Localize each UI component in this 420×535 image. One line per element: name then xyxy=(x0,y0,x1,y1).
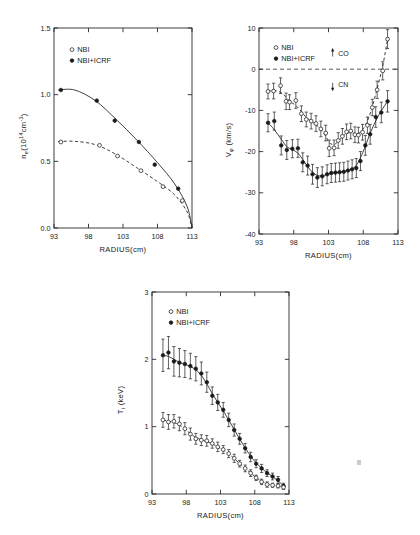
data-point xyxy=(254,476,258,480)
x-tick-label: 98 xyxy=(85,232,93,241)
y-tick-label: 0.5 xyxy=(41,157,51,166)
y-axis-label: Vφ (km/s) xyxy=(224,123,234,158)
legend-filled-marker xyxy=(274,57,278,61)
toroidal-rotation-group: 9398103108113-40-30-20-10010RADIUS(cm)Vφ… xyxy=(224,24,404,260)
data-point xyxy=(98,143,102,147)
toroidal-rotation-plot: 9398103108113-40-30-20-10010RADIUS(cm)Vφ… xyxy=(210,4,420,270)
toroidal-rotation-panel: 9398103108113-40-30-20-10010RADIUS(cm)Vφ… xyxy=(210,4,420,270)
legend: NBINBI+ICRF xyxy=(70,45,111,65)
x-tick-label: 93 xyxy=(50,232,58,241)
data-point xyxy=(285,148,289,152)
series-nbi-icrf xyxy=(266,91,389,188)
y-axis-label: ne(1014cm-3) xyxy=(18,113,29,158)
data-point xyxy=(178,361,182,365)
x-tick-label: 93 xyxy=(255,238,263,247)
data-point xyxy=(172,419,176,423)
data-point xyxy=(95,99,99,103)
data-point xyxy=(167,420,171,424)
data-point xyxy=(374,115,378,119)
data-point xyxy=(301,161,305,165)
data-point xyxy=(216,401,220,405)
legend-open-marker xyxy=(70,48,74,52)
data-point xyxy=(319,127,323,131)
legend-label-nbi: NBI xyxy=(281,43,293,52)
data-point xyxy=(294,99,298,103)
data-point xyxy=(336,139,340,143)
data-point xyxy=(320,175,324,179)
data-point xyxy=(296,147,300,151)
data-point xyxy=(176,187,180,191)
density-plot: 93981031081130.00.51.01.5RADIUS(cm)ne(10… xyxy=(0,4,210,270)
data-point xyxy=(59,140,63,144)
data-point xyxy=(137,140,141,144)
x-tick-label: 93 xyxy=(148,498,156,507)
data-point xyxy=(380,111,384,115)
data-point xyxy=(265,471,269,475)
data-point xyxy=(194,367,198,371)
data-point xyxy=(210,442,214,446)
data-point xyxy=(178,422,182,426)
ion-temperature-group: 93981031081130123RADIUS(cm)Ti (keV)NBINB… xyxy=(116,288,295,520)
data-point xyxy=(276,478,280,482)
data-point xyxy=(271,483,275,487)
data-point xyxy=(359,159,363,163)
data-point xyxy=(249,471,253,475)
data-point xyxy=(161,418,165,422)
data-point xyxy=(375,88,379,92)
data-point xyxy=(238,437,242,441)
data-point xyxy=(370,106,374,110)
data-point xyxy=(334,171,338,175)
data-point xyxy=(161,353,165,357)
data-point xyxy=(113,119,117,123)
x-tick-label: 98 xyxy=(290,238,298,247)
fit-curve xyxy=(58,141,192,228)
y-tick-label: -20 xyxy=(245,147,255,156)
direction-annotations: COCN xyxy=(331,48,349,91)
data-point xyxy=(272,89,276,93)
annotation-label-cn: CN xyxy=(338,81,348,88)
data-point xyxy=(345,130,349,134)
legend-open-marker xyxy=(169,310,173,314)
data-point xyxy=(183,362,187,366)
data-point xyxy=(368,132,372,136)
series-nbi-icrf xyxy=(58,88,192,228)
fit-curve xyxy=(163,355,284,486)
data-point xyxy=(200,372,204,376)
data-point xyxy=(249,455,253,459)
data-point xyxy=(243,446,247,450)
data-point xyxy=(386,100,390,104)
annotation-arrow-head xyxy=(331,48,334,51)
annotation-label-co: CO xyxy=(338,50,349,57)
legend-label-nbi-icrf: NBI+ICRF xyxy=(176,318,210,327)
x-tick-label: 98 xyxy=(182,498,190,507)
y-tick-label: -10 xyxy=(245,106,255,115)
data-point xyxy=(161,185,165,189)
data-point xyxy=(306,164,310,168)
data-point xyxy=(243,467,247,471)
data-point xyxy=(199,438,203,442)
data-point xyxy=(327,146,331,150)
data-point xyxy=(324,131,328,135)
data-point xyxy=(227,418,231,422)
scan-artifact xyxy=(357,460,361,465)
data-point xyxy=(167,351,171,355)
data-point xyxy=(299,112,303,116)
legend-filled-marker xyxy=(169,321,173,325)
data-point xyxy=(188,432,192,436)
legend: NBINBI+ICRF xyxy=(274,43,315,63)
legend-label-nbi-icrf: NBI+ICRF xyxy=(77,56,111,65)
legend: NBINBI+ICRF xyxy=(169,307,210,327)
data-point xyxy=(309,119,313,123)
data-point xyxy=(329,171,333,175)
data-point xyxy=(232,456,236,460)
data-point xyxy=(350,168,354,172)
data-point xyxy=(153,163,157,167)
data-point xyxy=(291,147,295,151)
data-point xyxy=(279,144,283,148)
plot-frame xyxy=(54,28,192,228)
y-tick-label: 10 xyxy=(248,24,256,33)
data-point xyxy=(232,428,236,432)
y-tick-label: 0 xyxy=(252,65,256,74)
data-point xyxy=(364,144,368,148)
y-tick-label: -30 xyxy=(245,188,255,197)
